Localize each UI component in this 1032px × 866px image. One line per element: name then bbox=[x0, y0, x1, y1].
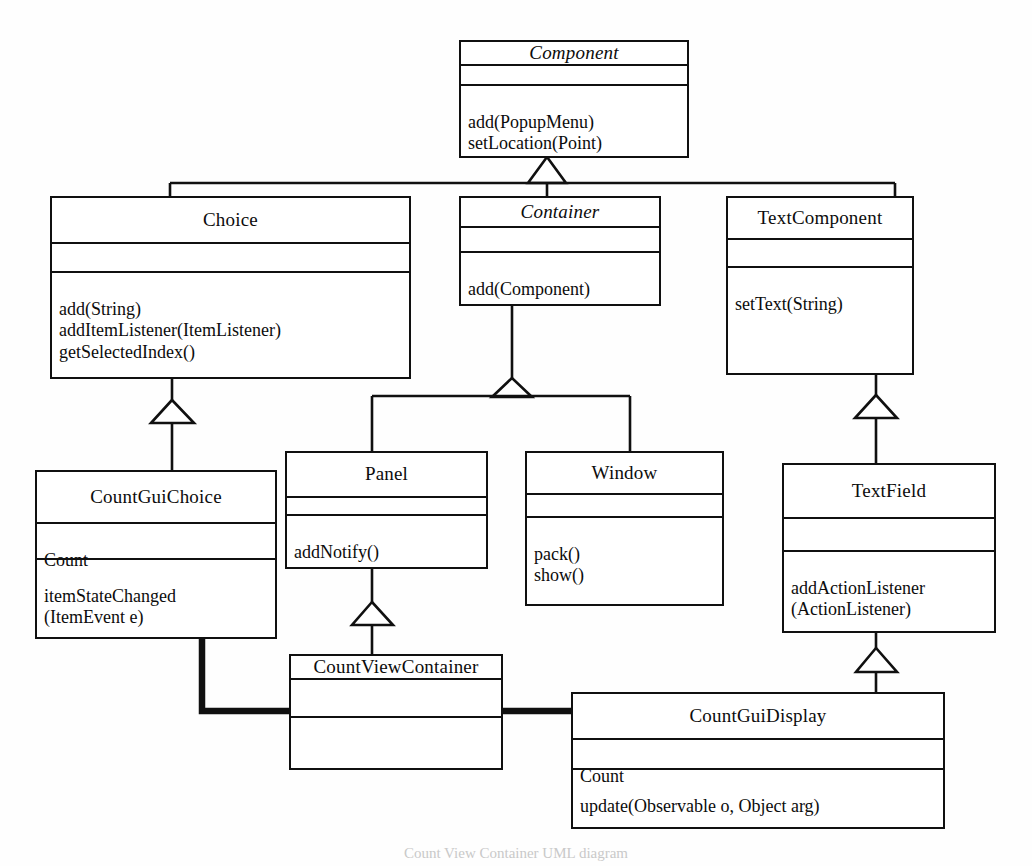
class-name-label: CountGuiDisplay bbox=[689, 705, 826, 727]
class-attributes-component bbox=[461, 64, 687, 84]
class-name-textfield: TextField bbox=[784, 465, 994, 517]
class-box-component[interactable]: Component add(PopupMenu) setLocation(Poi… bbox=[459, 40, 689, 158]
class-name-choice: Choice bbox=[52, 198, 409, 242]
generalization-textfield-countguidisplay bbox=[856, 633, 897, 692]
class-box-countguichoice[interactable]: CountGuiChoice Count itemStateChanged (I… bbox=[35, 470, 277, 639]
operations-text: addNotify() bbox=[294, 542, 379, 562]
class-attributes-container bbox=[461, 226, 659, 251]
class-box-textfield[interactable]: TextField addActionListener (ActionListe… bbox=[782, 463, 996, 633]
class-name-countguidisplay: CountGuiDisplay bbox=[573, 694, 943, 738]
class-operations-countguichoice: itemStateChanged (ItemEvent e) bbox=[37, 558, 275, 637]
class-attributes-panel bbox=[287, 496, 486, 514]
generalization-component-children bbox=[170, 157, 895, 196]
generalization-textcomponent-textfield bbox=[855, 374, 897, 463]
operations-text: pack() show() bbox=[534, 544, 584, 585]
class-box-countguidisplay[interactable]: CountGuiDisplay Count update(Observable … bbox=[571, 692, 945, 829]
operations-text: itemStateChanged (ItemEvent e) bbox=[44, 586, 176, 627]
class-name-window: Window bbox=[527, 453, 722, 493]
class-name-label: Component bbox=[529, 42, 618, 64]
operations-text: setText(String) bbox=[735, 294, 843, 314]
class-name-component: Component bbox=[461, 42, 687, 64]
operations-text: update(Observable o, Object arg) bbox=[580, 796, 820, 816]
class-name-label: Panel bbox=[365, 463, 408, 485]
class-name-textcomponent: TextComponent bbox=[728, 198, 912, 238]
class-attributes-countguidisplay: Count bbox=[573, 738, 943, 768]
operations-text: add(String) addItemListener(ItemListener… bbox=[59, 299, 281, 361]
class-name-panel: Panel bbox=[287, 453, 486, 496]
class-name-countguichoice: CountGuiChoice bbox=[37, 472, 275, 522]
uml-class-diagram: Component add(PopupMenu) setLocation(Poi… bbox=[0, 0, 1032, 866]
figure-caption: Count View Container UML diagram bbox=[0, 845, 1032, 862]
class-name-container: Container bbox=[461, 198, 659, 226]
class-name-label: TextComponent bbox=[758, 207, 883, 229]
class-box-window[interactable]: Window pack() show() bbox=[525, 451, 724, 606]
class-operations-textcomponent: setText(String) bbox=[728, 266, 912, 373]
class-name-label: TextField bbox=[852, 480, 926, 502]
class-name-label: Choice bbox=[203, 209, 258, 231]
class-attributes-choice bbox=[52, 242, 409, 271]
class-name-label: Window bbox=[592, 462, 658, 484]
class-operations-countviewcontainer bbox=[291, 716, 501, 769]
class-box-choice[interactable]: Choice add(String) addItemListener(ItemL… bbox=[50, 196, 411, 379]
class-attributes-window bbox=[527, 493, 722, 516]
class-attributes-textcomponent bbox=[728, 238, 912, 266]
class-box-panel[interactable]: Panel addNotify() bbox=[285, 451, 488, 569]
class-operations-container: add(Component) bbox=[461, 251, 659, 304]
class-name-label: CountViewContainer bbox=[314, 656, 479, 678]
operations-text: addActionListener (ActionListener) bbox=[791, 578, 925, 619]
class-box-textcomponent[interactable]: TextComponent setText(String) bbox=[726, 196, 914, 375]
class-operations-panel: addNotify() bbox=[287, 514, 486, 567]
class-operations-component: add(PopupMenu) setLocation(Point) bbox=[461, 84, 687, 159]
class-attributes-countguichoice: Count bbox=[37, 522, 275, 558]
association-countguichoice-countviewcontainer bbox=[202, 638, 289, 711]
class-box-countviewcontainer[interactable]: CountViewContainer bbox=[289, 654, 503, 770]
class-operations-choice: add(String) addItemListener(ItemListener… bbox=[52, 271, 409, 377]
class-attributes-countviewcontainer bbox=[291, 678, 501, 716]
operations-text: add(PopupMenu) setLocation(Point) bbox=[468, 112, 602, 153]
class-operations-countguidisplay: update(Observable o, Object arg) bbox=[573, 768, 943, 827]
operations-text: add(Component) bbox=[468, 279, 590, 299]
generalization-choice-countguichoice bbox=[151, 378, 194, 470]
class-attributes-textfield bbox=[784, 517, 994, 550]
class-name-label: CountGuiChoice bbox=[90, 486, 222, 508]
class-name-countviewcontainer: CountViewContainer bbox=[291, 656, 501, 678]
class-operations-textfield: addActionListener (ActionListener) bbox=[784, 550, 994, 631]
class-name-label: Container bbox=[521, 201, 600, 223]
class-operations-window: pack() show() bbox=[527, 516, 722, 604]
generalization-panel-countviewcontainer bbox=[352, 568, 393, 654]
class-box-container[interactable]: Container add(Component) bbox=[459, 196, 661, 306]
